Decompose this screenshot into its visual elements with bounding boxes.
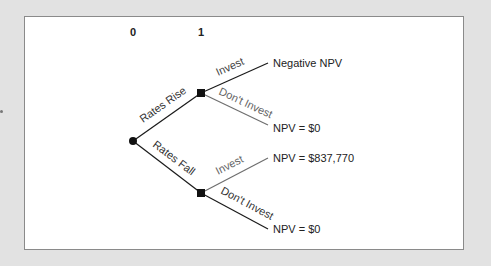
decision-tree: 0 1 Rates Rise Rates Fall Invest Don't I… xyxy=(0,0,491,266)
label-fall-dont-invest: Don't Invest xyxy=(219,184,276,222)
time-label-0: 0 xyxy=(130,26,136,38)
label-fall-invest: Invest xyxy=(213,153,245,177)
label-rise-invest: Invest xyxy=(214,55,246,78)
label-rates-rise: Rates Rise xyxy=(137,84,188,125)
outcome-fall-invest: NPV = $837,770 xyxy=(273,152,354,164)
outcome-rise-dont-invest: NPV = $0 xyxy=(273,122,320,134)
decision-node-upper-icon xyxy=(197,89,205,97)
chance-node-icon xyxy=(129,137,137,145)
time-label-1: 1 xyxy=(198,26,204,38)
label-rates-fall: Rates Fall xyxy=(151,138,198,177)
outcome-rise-invest: Negative NPV xyxy=(273,57,343,69)
outcome-fall-dont-invest: NPV = $0 xyxy=(273,223,320,235)
decision-node-lower-icon xyxy=(197,189,205,197)
